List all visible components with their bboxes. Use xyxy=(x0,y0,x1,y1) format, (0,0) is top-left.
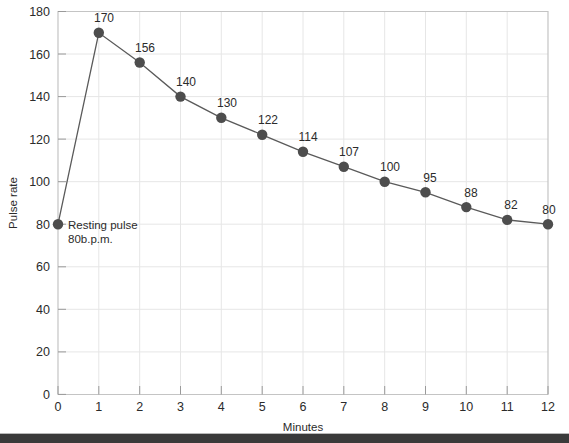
bottom-divider-bar xyxy=(0,433,569,443)
chart-page: 180 160 140 120 100 80 60 40 20 0 0 1 2 … xyxy=(0,0,569,443)
data-label-7: 107 xyxy=(339,145,359,159)
x-tick-2: 2 xyxy=(136,400,143,414)
data-point-5[interactable] xyxy=(257,130,267,140)
data-label-2: 156 xyxy=(135,41,155,55)
resting-pulse-line1: Resting pulse xyxy=(68,219,138,231)
data-label-9: 95 xyxy=(423,171,437,185)
data-label-8: 100 xyxy=(380,160,400,174)
data-label-1: 170 xyxy=(94,11,114,25)
y-tick-180: 180 xyxy=(29,5,50,19)
x-tick-1: 1 xyxy=(95,400,102,414)
data-point-9[interactable] xyxy=(420,187,430,197)
y-axis-title: Pulse rate xyxy=(7,177,19,229)
data-point-4[interactable] xyxy=(216,113,226,123)
data-point-1[interactable] xyxy=(94,28,104,38)
resting-pulse-line2: 80b.p.m. xyxy=(68,233,113,245)
y-tick-labels: 180 160 140 120 100 80 60 40 20 0 xyxy=(29,5,50,402)
data-point-0[interactable] xyxy=(53,219,63,229)
x-tick-11: 11 xyxy=(501,400,514,414)
data-point-12[interactable] xyxy=(543,219,553,229)
y-tick-120: 120 xyxy=(29,133,50,147)
y-tick-60: 60 xyxy=(36,260,50,274)
data-point-7[interactable] xyxy=(339,162,349,172)
x-tick-3: 3 xyxy=(177,400,184,414)
y-tick-0: 0 xyxy=(43,388,50,402)
pulse-rate-line-chart: 180 160 140 120 100 80 60 40 20 0 0 1 2 … xyxy=(0,0,569,443)
x-tick-10: 10 xyxy=(459,400,473,414)
data-label-11: 82 xyxy=(504,198,518,212)
data-point-11[interactable] xyxy=(502,215,512,225)
x-tick-12: 12 xyxy=(541,400,555,414)
x-tick-9: 9 xyxy=(422,400,429,414)
data-label-10: 88 xyxy=(464,186,478,200)
y-tick-100: 100 xyxy=(29,175,50,189)
y-tick-140: 140 xyxy=(29,90,50,104)
data-point-10[interactable] xyxy=(461,202,471,212)
x-tick-0: 0 xyxy=(55,400,62,414)
x-tick-8: 8 xyxy=(381,400,388,414)
data-point-2[interactable] xyxy=(135,57,145,67)
data-label-3: 140 xyxy=(176,75,196,89)
data-point-6[interactable] xyxy=(298,147,308,157)
y-tick-20: 20 xyxy=(36,345,50,359)
data-point-8[interactable] xyxy=(380,177,390,187)
x-axis-title: Minutes xyxy=(283,421,324,433)
data-label-4: 130 xyxy=(217,96,237,110)
x-tick-4: 4 xyxy=(218,400,225,414)
x-tick-7: 7 xyxy=(340,400,347,414)
y-tick-80: 80 xyxy=(36,218,50,232)
y-tick-40: 40 xyxy=(36,303,50,317)
x-tick-6: 6 xyxy=(300,400,307,414)
data-label-6: 114 xyxy=(298,130,317,144)
x-tick-labels: 0 1 2 3 4 5 6 7 8 9 10 11 12 xyxy=(55,400,555,414)
y-tick-160: 160 xyxy=(29,48,50,62)
data-label-12: 80 xyxy=(542,203,556,217)
data-point-3[interactable] xyxy=(175,91,185,101)
data-label-5: 122 xyxy=(258,113,278,127)
x-tick-5: 5 xyxy=(259,400,266,414)
